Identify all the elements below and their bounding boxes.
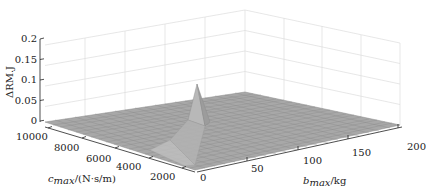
c-tick-label: 8000 — [54, 142, 79, 153]
b-tick-label: 0 — [200, 172, 206, 183]
z-tick-label: 0.2 — [21, 33, 37, 44]
b-axis-title: bmax/kg — [303, 175, 347, 188]
z-tick-label: 0.1 — [21, 74, 37, 85]
z-tick-label: 0.05 — [15, 95, 37, 106]
z-axis-title: ΔRM.J — [4, 66, 15, 98]
b-tick-label: 100 — [303, 155, 322, 166]
surface-plot: 0.2 0.15 0.1 0.05 0 ΔRM.J 10000 8000 600… — [0, 0, 426, 190]
z-tick-label: 0.15 — [15, 54, 37, 65]
c-tick-label: 4000 — [116, 161, 141, 172]
b-tick-label: 200 — [407, 141, 426, 152]
z-axis — [40, 38, 44, 122]
c-tick-label: 2000 — [150, 171, 175, 182]
b-tick-label: 150 — [352, 147, 371, 158]
c-tick-label: 10000 — [16, 131, 48, 142]
b-tick-label: 50 — [251, 163, 264, 174]
c-axis-title: cmax/(N·s/m) — [48, 173, 116, 186]
c-tick-label: 6000 — [86, 153, 111, 164]
z-tick-label: 0 — [31, 115, 37, 126]
